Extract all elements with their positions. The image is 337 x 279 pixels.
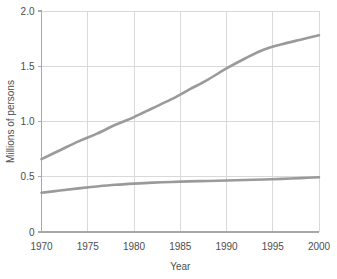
y-axis-title: Millions of persons	[5, 80, 16, 163]
chart-canvas: 1970197519801985199019952000 00.51.01.52…	[0, 0, 337, 279]
x-axis-tick-labels: 1970197519801985199019952000	[30, 241, 330, 252]
y-axis-tick-labels: 00.51.01.52.0	[21, 6, 35, 238]
line-chart: 1970197519801985199019952000 00.51.01.52…	[0, 0, 337, 279]
x-tick-label: 1975	[77, 241, 100, 252]
y-tick-label: 0.5	[21, 171, 35, 182]
y-tick-label: 0	[29, 227, 35, 238]
x-tick-label: 2000	[308, 241, 331, 252]
x-tick-label: 1985	[169, 241, 192, 252]
y-tick-label: 2.0	[21, 6, 35, 17]
x-tick-label: 1970	[30, 241, 53, 252]
y-tick-label: 1.0	[21, 116, 35, 127]
y-tick-label: 1.5	[21, 61, 35, 72]
x-tick-label: 1995	[262, 241, 285, 252]
x-axis-title: Year	[170, 261, 191, 272]
x-tick-label: 1990	[215, 241, 238, 252]
x-tick-label: 1980	[123, 241, 146, 252]
